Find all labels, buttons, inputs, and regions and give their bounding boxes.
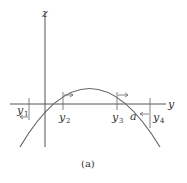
- svg-text:y: y: [152, 111, 160, 124]
- svg-text:a: a: [130, 110, 137, 123]
- y-axis-label: y: [167, 98, 175, 111]
- label-a: a: [130, 110, 137, 123]
- parabola-diagram: z y y 1 y 2 y 3 a y 4 (a): [0, 0, 187, 183]
- svg-text:1: 1: [24, 110, 28, 118]
- svg-text:3: 3: [119, 117, 123, 125]
- label-y4: y 4: [152, 111, 165, 125]
- svg-text:4: 4: [160, 117, 165, 125]
- label-y1: y 1: [16, 104, 28, 118]
- svg-text:y: y: [16, 104, 24, 117]
- figure-caption: (a): [81, 158, 95, 169]
- arrow-y4-left-icon: [140, 112, 149, 116]
- label-y3: y 3: [111, 111, 123, 125]
- parabola-curve: [20, 89, 160, 148]
- svg-text:y: y: [111, 111, 119, 124]
- arrow-y3-right-icon: [118, 93, 128, 97]
- z-axis-label: z: [41, 7, 48, 20]
- svg-text:2: 2: [66, 117, 70, 125]
- svg-text:y: y: [58, 111, 66, 124]
- label-y2: y 2: [58, 111, 70, 125]
